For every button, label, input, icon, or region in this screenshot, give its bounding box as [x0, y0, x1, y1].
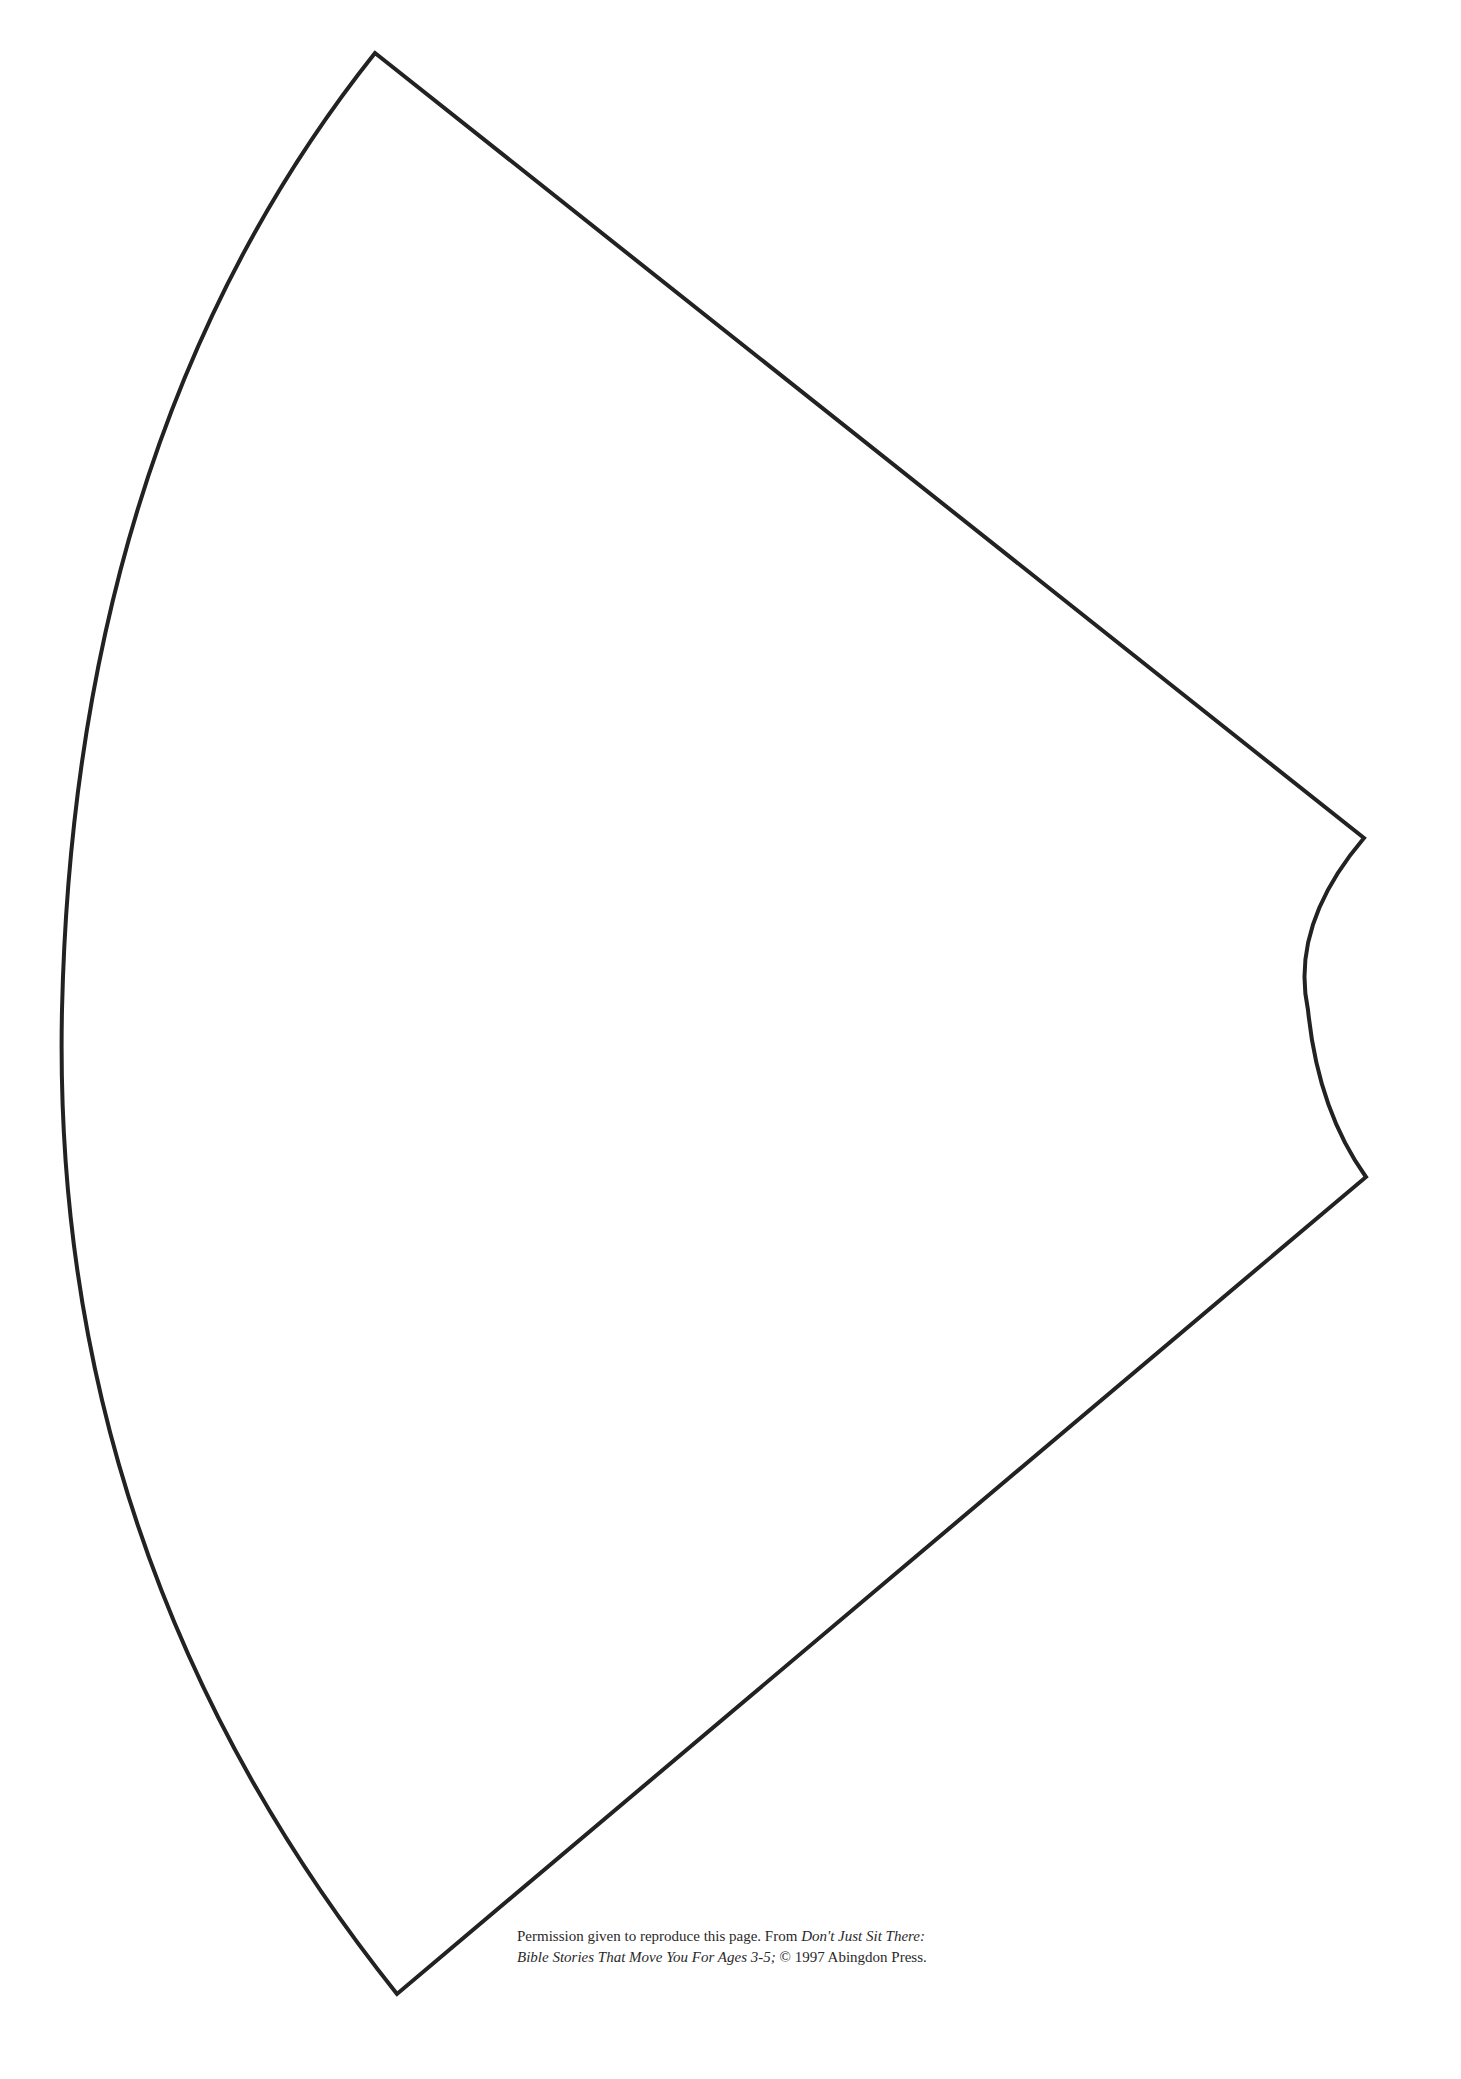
book-title-part-1: Don't Just Sit There:	[801, 1928, 925, 1944]
printable-page: Permission given to reproduce this page.…	[0, 0, 1461, 2079]
copyright-permission-notice: Permission given to reproduce this page.…	[517, 1926, 1077, 1968]
cone-template-outline	[0, 0, 1461, 2079]
cutout-shape-path	[62, 53, 1366, 1994]
footer-line-2: Bible Stories That Move You For Ages 3-5…	[517, 1947, 1077, 1968]
footer-line-1: Permission given to reproduce this page.…	[517, 1926, 1077, 1947]
permission-text: Permission given to reproduce this page.…	[517, 1928, 801, 1944]
book-title-part-2: Bible Stories That Move You For Ages 3-5…	[517, 1949, 776, 1965]
copyright-text: © 1997 Abingdon Press.	[776, 1949, 927, 1965]
